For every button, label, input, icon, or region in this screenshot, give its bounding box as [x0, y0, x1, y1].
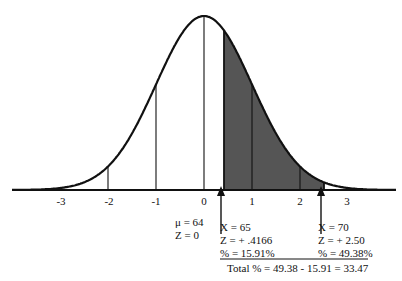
left-pct-label: % = 15.91% — [220, 247, 275, 260]
tick-label: -2 — [104, 195, 113, 207]
right-z-label: Z = + 2.50 — [318, 234, 365, 247]
tick-label: 1 — [249, 195, 255, 207]
total-label: Total % = 49.38 - 15.91 = 33.47 — [227, 262, 368, 275]
tick-label: -3 — [56, 195, 65, 207]
normal-distribution-chart: -3 -2 -1 0 1 2 3 μ = 64 Z = 0 X = 65 Z =… — [0, 0, 402, 281]
mean-z-label: Z = 0 — [175, 229, 199, 242]
left-z-label: Z = + .4166 — [220, 234, 272, 247]
left-x-label: X = 65 — [220, 221, 251, 234]
right-pct-label: % = 49.38% — [318, 247, 373, 260]
right-x-label: X = 70 — [318, 221, 349, 234]
mean-label: μ = 64 — [175, 216, 204, 229]
tick-label: -1 — [151, 195, 160, 207]
tick-label: 0 — [201, 195, 207, 207]
tick-label: 2 — [297, 195, 303, 207]
tick-label: 3 — [344, 195, 350, 207]
